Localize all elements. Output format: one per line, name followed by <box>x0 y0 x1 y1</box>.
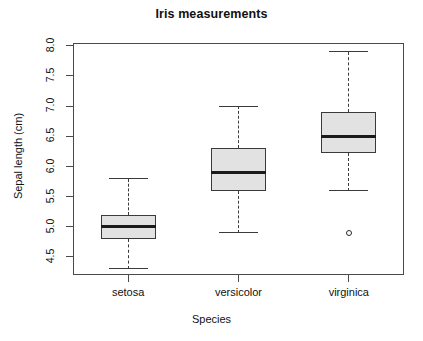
whisker-lower-versicolor <box>238 191 239 233</box>
y-axis-tick-label: 6.5 <box>44 118 56 152</box>
y-axis-tick <box>66 45 73 46</box>
y-axis-tick <box>66 75 73 76</box>
y-axis-tick <box>66 136 73 137</box>
cap-lower-versicolor <box>219 232 258 233</box>
y-axis-title: Sepal length (cm) <box>12 76 24 236</box>
y-axis-tick-label: 7.0 <box>44 88 56 122</box>
y-axis-tick <box>66 106 73 107</box>
x-axis-title: Species <box>0 313 423 325</box>
outlier-point-virginica <box>346 230 352 236</box>
median-versicolor <box>211 171 266 174</box>
y-axis-tick <box>66 256 73 257</box>
y-axis-tick <box>66 226 73 227</box>
y-axis-tick-label: 6.0 <box>44 149 56 183</box>
cap-lower-virginica <box>329 190 368 191</box>
y-axis-tick <box>66 166 73 167</box>
x-axis-tick-label-setosa: setosa <box>68 286 188 298</box>
cap-upper-versicolor <box>219 106 258 107</box>
box-virginica <box>321 112 376 153</box>
x-axis-tick <box>348 275 349 282</box>
y-axis-tick-label: 5.0 <box>44 209 56 243</box>
whisker-lower-setosa <box>128 239 129 269</box>
cap-lower-setosa <box>109 268 148 269</box>
y-axis-tick-label: 7.5 <box>44 58 56 92</box>
y-axis-tick <box>66 196 73 197</box>
x-axis-tick-label-versicolor: versicolor <box>179 286 299 298</box>
x-axis-tick <box>238 275 239 282</box>
median-setosa <box>101 225 156 228</box>
box-versicolor <box>211 148 266 190</box>
cap-upper-virginica <box>329 51 368 52</box>
x-axis-tick <box>128 275 129 282</box>
whisker-upper-virginica <box>348 52 349 112</box>
y-axis-tick-label: 5.5 <box>44 179 56 213</box>
y-axis-tick-label: 4.5 <box>44 239 56 273</box>
whisker-upper-versicolor <box>238 106 239 148</box>
median-virginica <box>321 135 376 138</box>
x-axis-tick-label-virginica: virginica <box>289 286 409 298</box>
whisker-lower-virginica <box>348 153 349 191</box>
y-axis-tick-label: 8.0 <box>44 28 56 62</box>
chart-figure: Iris measurements Sepal length (cm) 4.55… <box>0 0 423 341</box>
whisker-upper-setosa <box>128 179 129 215</box>
chart-title: Iris measurements <box>0 7 423 21</box>
cap-upper-setosa <box>109 178 148 179</box>
